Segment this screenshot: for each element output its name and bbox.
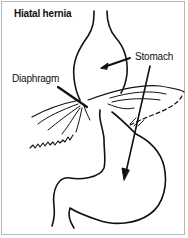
stomach-long-arrowhead (122, 168, 129, 180)
diaphragm-left-fiber-5 (84, 106, 90, 120)
diaphragm-left-fiber-1 (38, 104, 78, 124)
esophagus-left-wall (74, 11, 94, 100)
diaphragm-label: Diaphragm (12, 73, 59, 84)
diagram-title: Hiatal hernia (14, 8, 71, 19)
stomach-long-arrow (126, 66, 150, 172)
stomach-outer-wall (52, 110, 105, 226)
esophagus-right-wall (107, 11, 127, 93)
diaphragm-left-upper (32, 100, 80, 117)
diaphragm-right-fiber-1 (110, 92, 166, 98)
diaphragm-right-fiber-3 (108, 104, 134, 109)
stomach-label: Stomach (135, 51, 173, 62)
stomach-inner-wall (69, 112, 165, 228)
diaphragm-right-dashed (128, 96, 182, 126)
diaphragm-crus-squiggle (30, 135, 73, 148)
stomach-arrowhead (101, 63, 108, 69)
diaphragm-right-fiber-2 (112, 99, 160, 102)
hiatal-hernia-illustration (0, 0, 188, 238)
